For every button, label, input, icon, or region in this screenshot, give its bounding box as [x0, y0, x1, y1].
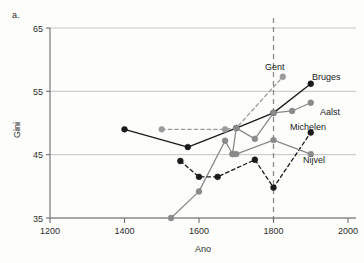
y-tick-label-55: 55 [33, 87, 43, 97]
data-point-aalst-1600 [196, 189, 202, 195]
data-point-nijvel-1700 [233, 151, 239, 157]
data-point-nijvel-1800 [271, 137, 277, 143]
series-label-aalst: Aalst [320, 107, 341, 117]
data-series-group [122, 74, 314, 221]
series-line-gent [162, 77, 283, 130]
y-tick-label-65: 65 [33, 24, 43, 34]
data-point-aalst-1700 [233, 125, 239, 131]
data-point-gent-1500 [159, 126, 165, 132]
series-michelen [177, 130, 313, 191]
data-point-aalst-1525 [168, 215, 174, 221]
gini-line-chart: 35455565 12001400160018002000 BrugesGent… [0, 0, 364, 263]
data-point-michelen-1550 [177, 158, 183, 164]
data-point-michelen-1650 [215, 174, 221, 180]
x-tick-label-1400: 1400 [114, 226, 134, 236]
x-tick-label-1800: 1800 [263, 226, 283, 236]
series-line-bruges [125, 84, 311, 147]
x-axis-ticks: 12001400160018002000 [40, 218, 358, 236]
x-tick-label-2000: 2000 [338, 226, 358, 236]
data-point-gent-1825 [280, 74, 286, 80]
y-axis-ticks: 35455565 [33, 24, 50, 224]
data-point-aalst-1800 [271, 110, 277, 116]
data-point-aalst-1750 [252, 136, 258, 142]
y-axis-title: Gini [12, 122, 22, 138]
series-label-michelen: Michelen [290, 122, 326, 132]
data-point-michelen-1750 [252, 157, 258, 163]
data-point-aalst-1900 [308, 100, 314, 106]
data-point-gent-1670 [222, 126, 228, 132]
figure-panel: a. 35455565 12001400160018002000 BrugesG… [0, 0, 364, 263]
data-point-aalst-1850 [289, 108, 295, 114]
x-tick-label-1600: 1600 [189, 226, 209, 236]
series-line-aalst [171, 103, 311, 218]
data-point-bruges-1570 [185, 144, 191, 150]
data-point-aalst-1670 [222, 138, 228, 144]
x-axis-title: Ano [195, 244, 211, 254]
data-point-michelen-1800 [271, 185, 277, 191]
y-tick-label-35: 35 [33, 214, 43, 224]
series-label-gent: Gent [265, 62, 285, 72]
data-point-bruges-1400 [122, 126, 128, 132]
y-tick-label-45: 45 [33, 150, 43, 160]
series-label-nijvel: Nijvel [303, 155, 325, 165]
x-tick-label-1200: 1200 [40, 226, 60, 236]
series-label-bruges: Bruges [312, 72, 341, 82]
data-point-michelen-1600 [196, 174, 202, 180]
